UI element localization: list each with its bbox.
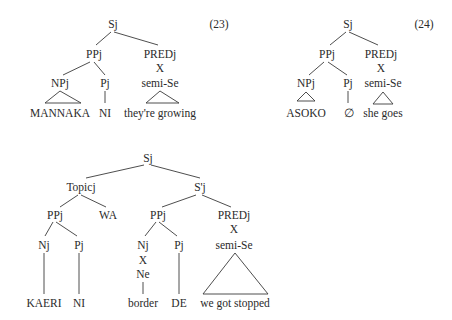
node-npj: NPj	[297, 77, 315, 90]
leaf-ni: NI	[73, 297, 85, 309]
triangle-semi-se	[146, 91, 179, 103]
edge-topicj-ppj	[60, 195, 78, 207]
node-semi-se: semi-Se	[215, 239, 252, 251]
triangle-npj	[45, 91, 81, 103]
node-predj: PREDj	[218, 209, 251, 222]
node-s-nj: Nj	[137, 239, 149, 252]
edge-ppj-pj	[56, 222, 77, 236]
leaf-she-goes: she goes	[363, 107, 403, 120]
node-ppj: PPj	[86, 48, 102, 61]
edge-sj-ppj	[330, 32, 346, 45]
leaf-theyre-growing: they're growing	[124, 107, 196, 120]
node-semi-se: semi-Se	[141, 77, 178, 89]
node-npj: NPj	[51, 77, 69, 90]
node-nj-x: X	[139, 254, 148, 266]
node-semi-se: semi-Se	[364, 77, 401, 89]
edge-sprime-predj	[202, 195, 231, 207]
leaf-de: DE	[171, 297, 186, 309]
node-topic-ppj: PPj	[47, 209, 63, 222]
edge-s-ppj-pj	[159, 222, 177, 236]
node-topicj: Topicj	[66, 181, 95, 194]
example-number-23: (23)	[209, 18, 228, 31]
node-sj: Sj	[343, 18, 353, 31]
node-s-ppj: PPj	[150, 209, 166, 222]
triangle-npj	[297, 92, 315, 101]
leaf-kaeri: KAERI	[26, 297, 61, 309]
leaf-we-got-stopped: we got stopped	[200, 297, 270, 310]
edge-sj-predj	[114, 32, 158, 45]
syntax-tree-diagrams: (23) Sj PPj PREDj X NPj Pj semi-Se MANNA…	[0, 0, 452, 320]
node-x: X	[377, 62, 386, 74]
leaf-border: border	[128, 297, 158, 309]
edge-sj-topicj	[86, 165, 144, 178]
node-pred-x: X	[230, 223, 239, 235]
tree-bottom: Sj Topicj S'j PPj WA PPj PREDj X Nj Pj N…	[26, 152, 270, 310]
edge-ppj-pj	[328, 62, 347, 75]
edge-ppj-pj	[94, 62, 105, 75]
node-topic-pj: Pj	[74, 239, 84, 252]
tree-23: (23) Sj PPj PREDj X NPj Pj semi-Se MANNA…	[30, 18, 229, 120]
node-x: X	[156, 62, 165, 74]
edge-sprime-ppj	[162, 195, 196, 207]
node-ppj: PPj	[319, 48, 335, 61]
edge-ppj-nj	[45, 222, 53, 236]
node-pj: Pj	[343, 77, 353, 90]
leaf-asoko: ASOKO	[286, 107, 326, 119]
edge-sj-ppj	[96, 32, 111, 45]
node-predj: PREDj	[365, 48, 398, 61]
triangle-semi-se	[373, 92, 393, 104]
edge-sj-sprime	[151, 165, 200, 178]
example-number-24: (24)	[414, 18, 433, 31]
leaf-ni: NI	[99, 107, 111, 119]
node-predj: PREDj	[144, 48, 177, 61]
node-pj: Pj	[100, 77, 110, 90]
edge-s-ppj-nj	[145, 222, 156, 236]
edge-ppj-npj	[63, 62, 90, 75]
node-topic-nj: Nj	[38, 239, 50, 252]
node-s-pj: Pj	[174, 239, 184, 252]
edge-sj-predj	[349, 32, 378, 45]
leaf-null: ∅	[344, 107, 354, 119]
node-ne: Ne	[136, 268, 149, 280]
node-sj: Sj	[143, 152, 153, 165]
tree-24: (24) Sj PPj PREDj X NPj Pj semi-Se ASOKO…	[286, 18, 434, 120]
node-sj: Sj	[108, 18, 118, 31]
triangle-semi-se	[203, 253, 268, 294]
leaf-mannaka: MANNAKA	[30, 107, 91, 119]
edge-topicj-wa	[81, 195, 106, 207]
edge-ppj-npj	[309, 62, 324, 75]
node-sprime-j: S'j	[194, 181, 206, 194]
node-wa: WA	[99, 209, 118, 221]
